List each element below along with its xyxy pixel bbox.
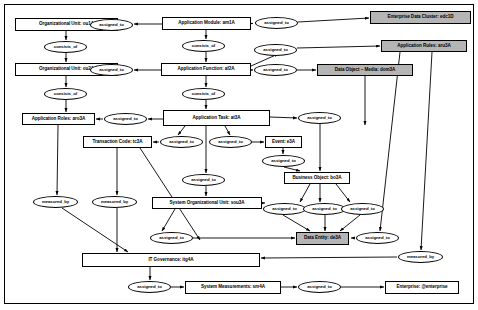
relation-assigned-to[interactable]: assigned_to [150, 232, 193, 244]
node-sou3A[interactable]: System Organizational Unit: sou3A [152, 197, 262, 209]
node-af2A[interactable]: Application Function: af2A [161, 63, 251, 76]
relation-assigned-to[interactable]: assigned_to [356, 232, 399, 244]
relation-assigned-to[interactable]: assigned_to [263, 203, 306, 215]
node-aro3A[interactable]: Application Roles: aro3A [22, 113, 95, 125]
relation-assigned-to[interactable]: assigned_to [262, 155, 305, 167]
relation-assigned-to[interactable]: assigned_to [90, 64, 133, 76]
relation-assigned-to[interactable]: assigned_to [160, 136, 203, 148]
relation-assigned-to[interactable]: assigned_to [104, 113, 147, 125]
node-bo3A[interactable]: Business Object: bo3A [284, 172, 350, 184]
node-aru3A[interactable]: Application Rules: aru3A [381, 40, 467, 52]
diagram-canvas: Enterprise Data Cluster: edc1D Applicati… [0, 0, 478, 310]
node-am1A[interactable]: Application Module: am1A [162, 17, 251, 30]
relation-measured-by[interactable]: measured_by [33, 196, 78, 208]
relation-assigned-to[interactable]: assigned_to [90, 19, 133, 31]
node-de3A[interactable]: Data Entity: de3A [296, 232, 349, 245]
node-itg4A[interactable]: IT Governance: itg4A [82, 253, 260, 267]
relation-assigned-to[interactable]: assigned_to [128, 281, 171, 293]
relation-assigned-to[interactable]: assigned_to [182, 174, 225, 186]
node-e3A[interactable]: Event: e3A [265, 136, 302, 148]
relation-assigned-to[interactable]: assigned_to [254, 64, 297, 76]
relation-measured-by[interactable]: measured_by [92, 196, 137, 208]
relation-assigned-to[interactable]: assigned_to [298, 112, 341, 124]
relation-consists-of[interactable]: consists_of [182, 40, 225, 52]
relation-measured-by[interactable]: measured_by [398, 251, 443, 263]
relation-assigned-to[interactable]: assigned_to [303, 203, 346, 215]
node-tc3A[interactable]: Transaction Code: tc3A [83, 136, 152, 148]
relation-consists-of[interactable]: consists_of [44, 41, 87, 53]
node-enterprise[interactable]: Enterprise: @enterprise [385, 281, 459, 294]
node-sm4A[interactable]: System Measurements: sm4A [185, 281, 281, 294]
relation-consists-of[interactable]: consists_of [44, 88, 87, 100]
node-dom3A[interactable]: Data Object – Media: dom3A [317, 64, 413, 76]
relation-assigned-to[interactable]: assigned_to [341, 203, 384, 215]
relation-assigned-to[interactable]: assigned_to [209, 136, 252, 148]
node-edc1D[interactable]: Enterprise Data Cluster: edc1D [370, 11, 471, 24]
relation-consists-of[interactable]: consists_of [182, 88, 225, 100]
relation-assigned-to[interactable]: assigned_to [254, 44, 297, 56]
relation-assigned-to[interactable]: assigned_to [298, 281, 341, 293]
node-at3A[interactable]: Application Task: at3A [163, 110, 270, 126]
relation-assigned-to[interactable]: assigned_to [255, 17, 298, 29]
